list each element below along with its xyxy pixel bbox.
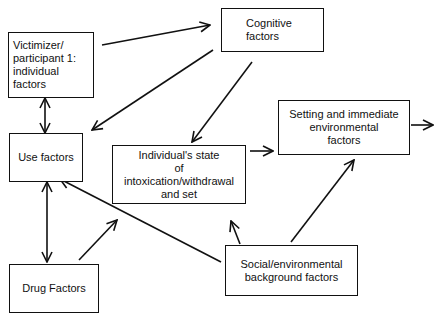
node-victimizer-label: Victimizer/ participant 1: individual fa… — [13, 39, 76, 91]
node-cognitive-factors: Cognitive factors — [221, 8, 324, 52]
edge-cognitive-state — [192, 62, 252, 142]
node-setting-factors: Setting and immediate environmental fact… — [278, 100, 410, 155]
node-setting-label: Setting and immediate environmental fact… — [289, 108, 398, 147]
edge-social-setting — [291, 160, 354, 242]
node-individual-state: Individual's state of intoxication/withd… — [112, 145, 246, 204]
node-use-factors: Use factors — [9, 133, 83, 182]
node-social-factors: Social/environmental background factors — [225, 245, 358, 296]
node-state-label: Individual's state of intoxication/withd… — [124, 149, 234, 201]
node-drug-factors: Drug Factors — [9, 264, 99, 313]
edge-social-state — [231, 221, 240, 244]
edge-victimizer-cognitive — [102, 25, 210, 45]
node-cognitive-label: Cognitive factors — [246, 17, 292, 43]
node-victimizer-factors: Victimizer/ participant 1: individual fa… — [8, 32, 94, 98]
node-use-label: Use factors — [18, 151, 74, 164]
edge-cognitive-use — [92, 50, 213, 130]
edge-drug-state — [79, 220, 117, 260]
node-drug-label: Drug Factors — [22, 282, 86, 295]
node-social-label: Social/environmental background factors — [240, 258, 342, 284]
